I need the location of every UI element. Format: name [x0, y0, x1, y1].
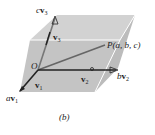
figure-caption: (b)	[59, 112, 70, 122]
bv2-label: bv2	[117, 71, 129, 82]
cv3-label: cv3	[36, 5, 48, 16]
av1-label: av1	[6, 93, 18, 104]
point-p-label: P(a, b, c)	[106, 40, 141, 50]
box-top-face	[30, 15, 135, 40]
origin-label: O	[31, 61, 38, 71]
parallelepiped-diagram: O P(a, b, c) cv3 v3 v1 av1 v2 bv2 (b)	[0, 0, 155, 135]
